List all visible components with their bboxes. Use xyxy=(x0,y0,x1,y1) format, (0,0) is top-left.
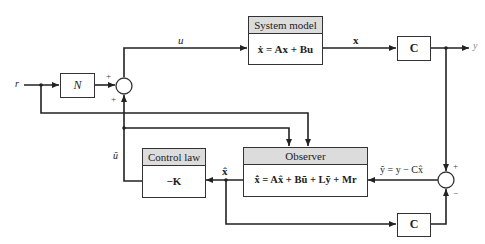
observer-block: Observer x̂̇ = Ax̂ + Bũ + Lỹ + Mr xyxy=(243,147,368,197)
u-tilde-to-observer-wire xyxy=(124,128,289,146)
sum2-top-sign: + xyxy=(453,161,458,171)
signal-label-u: u xyxy=(178,34,184,46)
input-label-r: r xyxy=(15,78,19,89)
sum1-bottom-sign: + xyxy=(111,94,116,104)
control-law-equation: −K xyxy=(143,166,205,196)
junction-dot-u-tilde xyxy=(122,126,126,130)
control-law-block: Control law −K xyxy=(142,148,206,198)
junction-dot-r xyxy=(39,83,43,87)
u-wire xyxy=(124,48,247,77)
sum1-top-sign: + xyxy=(106,71,111,81)
gain-block-label: N xyxy=(61,74,94,96)
output-block-c-top: C xyxy=(397,36,431,61)
summing-junction-2 xyxy=(438,172,454,188)
observer-title: Observer xyxy=(244,148,367,165)
output-block-c-bottom: C xyxy=(397,213,431,237)
signal-label-u-tilde: ũ xyxy=(113,150,118,161)
signal-label-x-hat: x̂ xyxy=(222,165,228,177)
observer-equation: x̂̇ = Ax̂ + Bũ + Lỹ + Mr xyxy=(244,165,367,195)
system-model-title: System model xyxy=(249,17,322,34)
signal-label-x: x xyxy=(353,34,359,46)
c-to-sum2-wire xyxy=(430,189,446,224)
system-model-equation: ẋ = Ax + Bu xyxy=(249,34,322,64)
control-law-title: Control law xyxy=(143,149,205,166)
gain-block-n: N xyxy=(60,73,95,98)
sum2-bottom-sign: − xyxy=(453,188,458,198)
junction-dot-x-hat xyxy=(224,178,228,182)
junction-dot-y xyxy=(444,46,448,50)
u-tilde-wire xyxy=(124,95,142,181)
output-block-c-bottom-label: C xyxy=(398,214,430,235)
output-block-c-top-label: C xyxy=(398,37,430,59)
signal-label-y-tilde: ỹ = y − Cx̂ xyxy=(380,164,423,175)
system-model-block: System model ẋ = Ax + Bu xyxy=(248,16,323,65)
summing-junction-1 xyxy=(116,78,132,94)
output-label-y: y xyxy=(473,40,477,51)
